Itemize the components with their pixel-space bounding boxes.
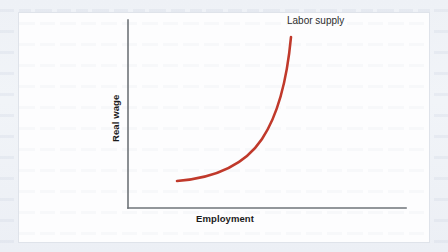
- scanned-page: Real wage Employment Labor supply: [0, 0, 448, 252]
- x-axis-label: Employment: [196, 213, 254, 224]
- labor-supply-curve-label: Labor supply: [287, 15, 344, 26]
- labor-supply-curve: [177, 37, 291, 181]
- y-axis-label: Real wage: [110, 95, 121, 142]
